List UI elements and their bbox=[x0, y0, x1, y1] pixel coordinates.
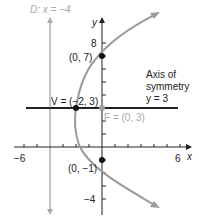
tick-label-6: 6 bbox=[175, 153, 181, 164]
parabola-graph: D: x = −4 y x 8 −4 −6 6 (0, 7) (0, −1) V… bbox=[0, 0, 199, 222]
axis-label-line2: symmetry bbox=[146, 81, 189, 92]
point-focus bbox=[99, 105, 105, 111]
vertex-label: V = (−2, 3) bbox=[51, 96, 98, 107]
tick-label-neg6: −6 bbox=[14, 153, 26, 164]
point-label-0-7: (0, 7) bbox=[69, 52, 92, 63]
tick-label-8: 8 bbox=[91, 38, 97, 49]
point-label-0-neg1: (0, −1) bbox=[68, 163, 97, 174]
tick-label-neg4: −4 bbox=[84, 194, 96, 205]
focus-label: F = (0, 3) bbox=[104, 112, 145, 123]
curve-arrow-bottom bbox=[150, 201, 160, 208]
point-0-7 bbox=[99, 53, 105, 59]
y-axis-label: y bbox=[91, 17, 98, 28]
parabola-curve bbox=[75, 14, 156, 205]
axis-label-line3: y = 3 bbox=[146, 93, 168, 104]
directrix-label: D: x = −4 bbox=[30, 4, 71, 15]
point-0-neg1 bbox=[99, 157, 105, 163]
axis-label-line1: Axis of bbox=[146, 69, 176, 80]
x-axis-label: x bbox=[186, 151, 193, 162]
